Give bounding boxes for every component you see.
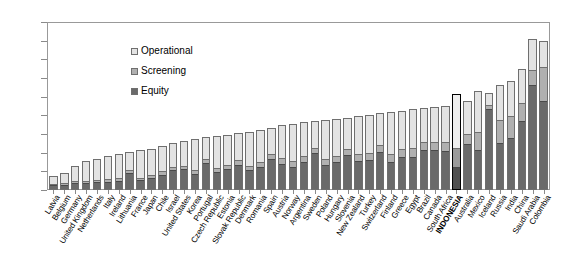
bar-segment-screening [388, 154, 394, 162]
bar[interactable] [278, 125, 286, 190]
bar[interactable] [158, 146, 166, 190]
bar[interactable] [245, 132, 253, 190]
x-axis-tick-mark [511, 190, 512, 194]
bar[interactable] [507, 81, 515, 190]
bar-segment-equity [519, 121, 525, 189]
bar[interactable] [104, 156, 112, 190]
bar-segment-equity [72, 183, 78, 189]
bar[interactable] [409, 109, 417, 190]
bar[interactable] [191, 139, 199, 190]
bar-segment-operational [464, 102, 470, 134]
x-axis-tick-mark [151, 190, 152, 194]
bar[interactable] [169, 143, 177, 190]
x-axis-tick-mark [315, 190, 316, 194]
bar-segment-equity [159, 175, 165, 189]
x-axis-tick-mark [467, 190, 468, 194]
bar-segment-screening [421, 142, 427, 150]
bar-segment-screening [377, 145, 383, 152]
bar-segment-operational [203, 138, 209, 159]
bar[interactable] [387, 112, 395, 190]
bar[interactable] [311, 121, 319, 190]
bar[interactable] [300, 122, 308, 190]
bar-segment-equity [388, 162, 394, 189]
bar-segment-equity [170, 170, 176, 189]
x-axis-tick-mark [119, 190, 120, 194]
x-axis-tick-mark [391, 190, 392, 194]
bar[interactable] [234, 133, 242, 190]
bar[interactable] [147, 149, 155, 190]
bar[interactable] [115, 154, 123, 190]
bar[interactable] [496, 85, 504, 190]
bar-segment-equity [312, 153, 318, 189]
bar-segment-operational [126, 153, 132, 170]
bar-segment-operational [508, 82, 514, 116]
bar[interactable] [267, 128, 275, 190]
bar[interactable] [376, 113, 384, 190]
bar[interactable] [430, 107, 438, 190]
bar[interactable] [539, 41, 547, 190]
bar-segment-operational [61, 174, 67, 183]
bar[interactable] [49, 176, 57, 190]
bar[interactable] [441, 106, 449, 190]
bar-segment-screening [475, 132, 481, 150]
bar[interactable] [321, 120, 329, 190]
bar[interactable] [365, 115, 373, 190]
bar[interactable] [528, 39, 536, 190]
bar[interactable] [125, 152, 133, 190]
bar[interactable] [518, 69, 526, 190]
bar[interactable] [398, 111, 406, 190]
bar[interactable] [256, 130, 264, 190]
bar[interactable] [420, 108, 428, 190]
bar[interactable] [223, 135, 231, 190]
x-axis-tick-mark [380, 190, 381, 194]
bar-segment-screening [453, 148, 459, 167]
x-axis-tick-mark [228, 190, 229, 194]
bar[interactable] [332, 119, 340, 190]
bar-segment-operational [116, 155, 122, 178]
bar[interactable] [354, 116, 362, 190]
bar-segment-equity [399, 157, 405, 189]
bar-segment-operational [181, 142, 187, 166]
x-axis-tick-mark [271, 190, 272, 194]
x-axis-tick-mark [304, 190, 305, 194]
bar[interactable] [213, 136, 221, 190]
bars-layer [48, 23, 549, 190]
bar-segment-equity [453, 167, 459, 189]
bar-highlighted[interactable] [452, 94, 460, 190]
bar-segment-equity [529, 85, 535, 189]
bar-segment-operational [94, 160, 100, 180]
bar-segment-equity [540, 101, 546, 189]
bar-segment-operational [442, 107, 448, 142]
bar[interactable] [136, 150, 144, 190]
x-axis-tick-mark [108, 190, 109, 194]
x-axis-tick-mark [195, 190, 196, 194]
bar-segment-operational [322, 121, 328, 158]
y-axis-tick-mark [41, 41, 47, 42]
x-axis-tick-mark [435, 190, 436, 194]
bar[interactable] [474, 91, 482, 190]
bar-segment-operational [290, 125, 296, 161]
bar[interactable] [71, 166, 79, 190]
y-axis-tick-mark [41, 153, 47, 154]
bar[interactable] [82, 161, 90, 190]
bar[interactable] [485, 93, 493, 190]
bar[interactable] [180, 141, 188, 190]
x-axis-tick-mark [162, 190, 163, 194]
bar[interactable] [202, 137, 210, 190]
bar-segment-equity [442, 151, 448, 189]
bar-segment-operational [410, 110, 416, 148]
bar[interactable] [60, 173, 68, 190]
x-axis-tick-mark [489, 190, 490, 194]
bar-segment-equity [475, 150, 481, 189]
bar-segment-operational [453, 95, 459, 148]
bar[interactable] [343, 118, 351, 190]
bar-segment-equity [246, 170, 252, 189]
bar-segment-screening [508, 116, 514, 138]
bar[interactable] [289, 124, 297, 190]
x-axis-tick-mark [173, 190, 174, 194]
bar[interactable] [93, 159, 101, 190]
bar-segment-operational [137, 151, 143, 177]
bar-segment-screening [410, 148, 416, 157]
bar-segment-equity [464, 144, 470, 189]
bar[interactable] [463, 101, 471, 190]
